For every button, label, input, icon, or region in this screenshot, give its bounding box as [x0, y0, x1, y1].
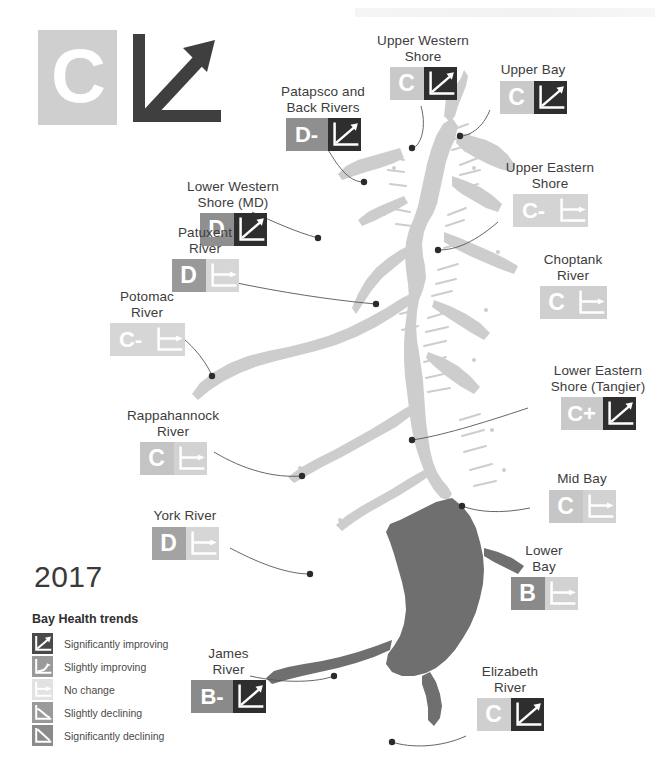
region-callout-upper-bay[interactable]: Upper BayC: [478, 62, 588, 114]
region-badge[interactable]: C-: [485, 194, 615, 227]
region-callout-lower-eastern-shore-tangier[interactable]: Lower Eastern Shore (Tangier)C+: [528, 363, 668, 430]
region-name-label: Rappahannock River: [108, 408, 238, 439]
region-grade: C-: [110, 323, 152, 356]
region-grade: C: [540, 286, 574, 319]
legend-row: Significantly declining: [32, 725, 217, 746]
region-badge[interactable]: C: [527, 490, 637, 523]
logo-grade-letter: C: [51, 38, 104, 114]
trend-flat-icon: [186, 527, 219, 560]
region-name-label: Patuxent River: [150, 225, 260, 256]
region-badge[interactable]: C: [108, 442, 238, 475]
region-name-label: James River: [176, 646, 281, 677]
region-name-label: Upper Bay: [478, 62, 588, 78]
region-badge[interactable]: D: [130, 527, 240, 560]
region-grade: C: [549, 490, 583, 523]
trend-flat-icon: [206, 259, 239, 292]
region-name-label: Mid Bay: [527, 471, 637, 487]
region-name-label: Choptank River: [518, 252, 628, 283]
region-grade: D: [172, 259, 206, 292]
trend-strong-up-icon: [424, 67, 457, 100]
trend-flat-icon: [152, 323, 185, 356]
legend-item-label: Significantly improving: [64, 638, 168, 650]
region-callout-james-river[interactable]: James RiverB-: [176, 646, 281, 713]
region-callout-patuxent-river[interactable]: Patuxent RiverD: [150, 225, 260, 292]
region-name-label: Elizabeth River: [455, 664, 565, 695]
trend-strong-up-icon: [328, 118, 361, 151]
region-name-label: Patapsco and Back Rivers: [263, 84, 383, 115]
trend-strong-up-icon: [534, 81, 567, 114]
region-callout-potomac-river[interactable]: Potomac RiverC-: [92, 289, 202, 356]
region-callout-lower-bay[interactable]: Lower BayB: [494, 543, 594, 610]
report-card-page: C 2017 Bay Health trends Significantly i…: [0, 0, 671, 784]
region-badge[interactable]: D: [150, 259, 260, 292]
trend-slight-down-icon: [32, 702, 53, 723]
legend-item-label: Slightly declining: [64, 707, 142, 719]
region-callout-choptank-river[interactable]: Choptank RiverC: [518, 252, 628, 319]
region-name-label: York River: [130, 508, 240, 524]
region-grade: C: [500, 81, 534, 114]
legend-item-label: Slightly improving: [64, 661, 146, 673]
region-name-label: Upper Eastern Shore: [485, 160, 615, 191]
trend-strong-up-icon: [233, 680, 266, 713]
trend-flat-icon: [574, 286, 607, 319]
region-badge[interactable]: C: [478, 81, 588, 114]
region-name-label: Potomac River: [92, 289, 202, 320]
region-name-label: Lower Western Shore (MD): [168, 179, 298, 210]
region-grade: C+: [561, 397, 603, 430]
region-name-label: Lower Bay: [494, 543, 594, 574]
region-badge[interactable]: C: [518, 286, 628, 319]
year-label: 2017: [34, 560, 103, 594]
region-grade: D-: [286, 118, 328, 151]
region-grade: B: [511, 577, 545, 610]
legend-item-label: Significantly declining: [64, 730, 164, 742]
trend-slight-up-icon: [32, 656, 53, 677]
region-badge[interactable]: C: [455, 698, 565, 731]
region-grade: C: [140, 442, 174, 475]
region-grade: C: [390, 67, 424, 100]
legend-item-label: No change: [64, 684, 115, 696]
region-badge[interactable]: B: [494, 577, 594, 610]
region-name-label: Upper Western Shore: [363, 33, 483, 64]
region-grade: C-: [513, 194, 555, 227]
region-badge[interactable]: B-: [176, 680, 281, 713]
trend-strong-down-icon: [32, 725, 53, 746]
region-name-label: Lower Eastern Shore (Tangier): [528, 363, 668, 394]
trend-flat-icon: [174, 442, 207, 475]
region-callout-elizabeth-river[interactable]: Elizabeth RiverC: [455, 664, 565, 731]
region-callout-rappahannock-river[interactable]: Rappahannock RiverC: [108, 408, 238, 475]
region-callout-mid-bay[interactable]: Mid BayC: [527, 471, 637, 523]
trend-strong-up-icon: [603, 397, 636, 430]
region-callout-york-river[interactable]: York RiverD: [130, 508, 240, 560]
region-grade: C: [477, 698, 511, 731]
region-badge[interactable]: D-: [263, 118, 383, 151]
significantly-improving-arrow-icon: [123, 30, 223, 127]
region-callout-patapsco-and-back-rivers[interactable]: Patapsco and Back RiversD-: [263, 84, 383, 151]
trend-flat-icon: [545, 577, 578, 610]
region-badge[interactable]: C+: [528, 397, 668, 430]
trend-strong-up-icon: [32, 633, 53, 654]
region-badge[interactable]: C-: [92, 323, 202, 356]
legend-title: Bay Health trends: [32, 612, 217, 626]
trend-flat-icon: [555, 194, 588, 227]
region-grade: D: [152, 527, 186, 560]
report-card-logo: C: [38, 30, 223, 127]
trend-strong-up-icon: [511, 698, 544, 731]
logo-grade-swatch: C: [38, 30, 117, 125]
region-grade: B-: [191, 680, 233, 713]
trend-flat-icon: [32, 679, 53, 700]
trend-flat-icon: [583, 490, 616, 523]
region-callout-upper-eastern-shore[interactable]: Upper Eastern ShoreC-: [485, 160, 615, 227]
